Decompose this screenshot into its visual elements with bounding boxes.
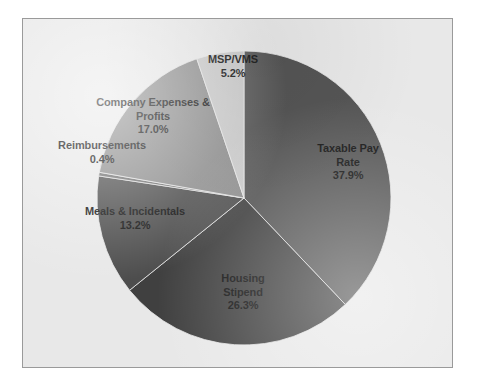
slice-label-company-expenses-name-1: Company Expenses & <box>53 96 253 110</box>
slice-label-company-expenses-name-2: Profits <box>53 110 253 124</box>
slice-label-taxable-pay-rate-name-2: Rate <box>288 156 408 170</box>
chart-frame: MSP/VMS 5.2% Company Expenses & Profits … <box>22 18 453 368</box>
screenshot-canvas: MSP/VMS 5.2% Company Expenses & Profits … <box>0 0 477 390</box>
slice-label-company-expenses: Company Expenses & Profits 17.0% <box>53 96 253 137</box>
slice-label-meals-incidentals-name: Meals & Incidentals <box>45 205 225 219</box>
slice-label-housing-stipend-value: 26.3% <box>183 299 303 313</box>
slice-label-taxable-pay-rate-value: 37.9% <box>288 169 408 183</box>
slice-label-reimbursements-value: 0.4% <box>22 153 187 167</box>
slice-label-msp-vms-name: MSP/VMS <box>173 53 293 67</box>
slice-label-housing-stipend-name-1: Housing <box>183 272 303 286</box>
slice-label-company-expenses-value: 17.0% <box>53 123 253 137</box>
slice-label-taxable-pay-rate: Taxable Pay Rate 37.9% <box>288 142 408 183</box>
slice-label-meals-incidentals-value: 13.2% <box>45 219 225 233</box>
slice-label-housing-stipend-name-2: Stipend <box>183 286 303 300</box>
slice-label-housing-stipend: Housing Stipend 26.3% <box>183 272 303 313</box>
slice-label-msp-vms-value: 5.2% <box>173 67 293 81</box>
slice-label-taxable-pay-rate-name-1: Taxable Pay <box>288 142 408 156</box>
slice-label-reimbursements: Reimbursements 0.4% <box>22 139 187 166</box>
slice-label-msp-vms: MSP/VMS 5.2% <box>173 53 293 80</box>
slice-label-reimbursements-name: Reimbursements <box>22 139 187 153</box>
slice-label-meals-incidentals: Meals & Incidentals 13.2% <box>45 205 225 232</box>
